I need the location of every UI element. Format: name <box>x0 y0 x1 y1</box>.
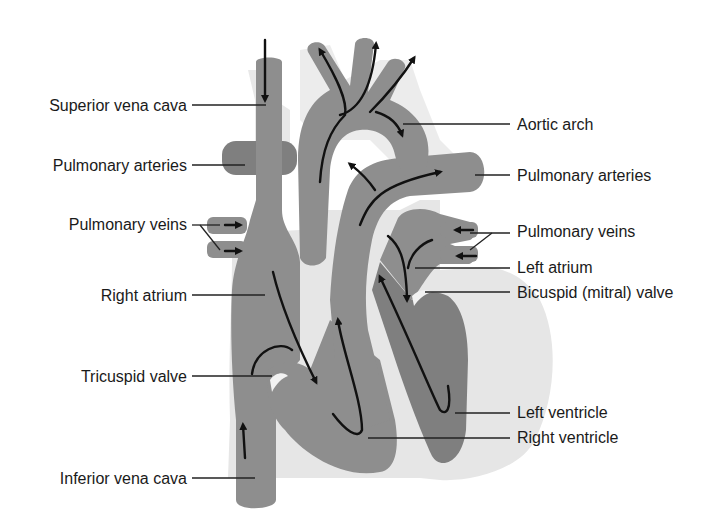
label-inferior-vena-cava: Inferior vena cava <box>60 470 187 487</box>
label-pulmonary-arteries-right: Pulmonary arteries <box>517 167 651 184</box>
label-left-atrium: Left atrium <box>517 259 593 276</box>
label-superior-vena-cava: Superior vena cava <box>49 97 187 114</box>
label-left-ventricle: Left ventricle <box>517 404 608 421</box>
label-pulmonary-arteries-left: Pulmonary arteries <box>53 157 187 174</box>
label-tricuspid-valve: Tricuspid valve <box>81 368 187 385</box>
label-aortic-arch: Aortic arch <box>517 116 593 133</box>
label-pulmonary-veins-left: Pulmonary veins <box>69 216 187 233</box>
labels-left: Superior vena cava Pulmonary arteries Pu… <box>49 97 187 487</box>
label-right-atrium: Right atrium <box>101 287 187 304</box>
label-right-ventricle: Right ventricle <box>517 429 618 446</box>
heart-diagram: Superior vena cava Pulmonary arteries Pu… <box>0 0 713 527</box>
label-bicuspid-valve: Bicuspid (mitral) valve <box>517 284 674 301</box>
label-pulmonary-veins-right: Pulmonary veins <box>517 223 635 240</box>
